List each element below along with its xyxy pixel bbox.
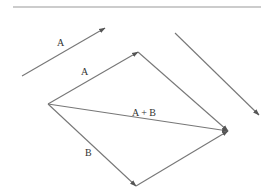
- vector-a: A: [48, 52, 138, 104]
- vector-sum-label: A + B: [132, 107, 156, 118]
- vector-b-label: B: [85, 147, 92, 158]
- vector-a-label: A: [81, 66, 89, 77]
- vector-b-arrow: [48, 104, 136, 186]
- vector-addition-diagram: A A B A + B: [0, 0, 273, 195]
- free-vector-b: [175, 33, 259, 115]
- free-vector-a-label: A: [57, 37, 65, 48]
- vector-sum: A + B: [48, 104, 228, 131]
- vector-b: B: [48, 104, 136, 186]
- free-vector-b-arrow: [175, 33, 259, 115]
- side-a-from-b-arrow: [136, 131, 228, 186]
- vector-a-arrow: [48, 52, 138, 104]
- free-vector-a-arrow: [22, 28, 105, 76]
- free-vector-a: A: [22, 28, 105, 76]
